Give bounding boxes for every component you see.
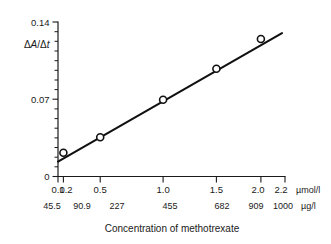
x-primary-label: 1.5: [210, 184, 223, 195]
data-point-marker: [213, 65, 220, 72]
x-axis-title: Concentration of methotrexate: [105, 223, 240, 234]
x-secondary-label: 455: [162, 201, 177, 211]
x-primary-label: 1.0: [156, 184, 169, 195]
data-point-marker: [60, 149, 67, 156]
x-secondary-label: 227: [109, 201, 124, 211]
y-axis-title: ΔA/Δt: [24, 39, 51, 50]
x-axis-unit-secondary: µg/l: [301, 201, 316, 211]
y-tick-label-zero: 0: [44, 171, 49, 182]
x-axis-primary-labels: 0.1 0.2 0.5 1.0 1.5 2.0 2.2 µmol/l: [51, 184, 320, 195]
y-tick-label-top: 0.14: [31, 17, 50, 28]
svg-text:ΔA/Δt: ΔA/Δt: [24, 39, 51, 50]
y-axis-major-ticks: [53, 22, 59, 177]
chart-figure: 0.14 0.07 0 ΔA/Δt 0.1 0.2 0.5 1.0 1.5 2.…: [0, 0, 331, 244]
calibration-fit-line: [58, 33, 282, 161]
data-markers-group: [60, 36, 265, 157]
data-point-marker: [257, 36, 264, 43]
x-primary-label: 0.5: [94, 184, 107, 195]
x-axis-ticks: [58, 177, 285, 183]
x-primary-label: 2.0: [251, 184, 264, 195]
x-secondary-label: 45.5: [43, 201, 61, 211]
x-secondary-label: 1000: [273, 201, 293, 211]
data-point-marker: [97, 134, 104, 141]
x-primary-label: 0.2: [59, 184, 72, 195]
x-primary-label: 2.2: [274, 184, 287, 195]
x-secondary-label: 682: [214, 201, 229, 211]
data-point-marker: [160, 96, 167, 103]
x-axis-secondary-labels: 45.5 90.9 227 455 682 909 1000 µg/l: [43, 201, 315, 211]
y-axis-title-t: t: [47, 39, 51, 50]
x-axis-unit-primary: µmol/l: [296, 185, 320, 195]
x-secondary-label: 909: [248, 201, 263, 211]
y-tick-label-mid: 0.07: [31, 94, 50, 105]
calibration-curve-plot: 0.14 0.07 0 ΔA/Δt 0.1 0.2 0.5 1.0 1.5 2.…: [0, 0, 331, 244]
x-secondary-label: 90.9: [73, 201, 91, 211]
axes-group: [57, 22, 285, 177]
